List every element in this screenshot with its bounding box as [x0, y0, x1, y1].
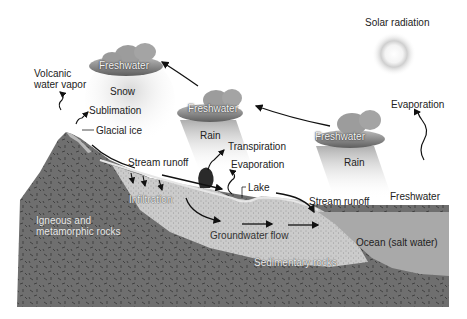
- label-sedimentary-rocks: Sedimentary rocks: [254, 257, 337, 268]
- label-sublimation: Sublimation: [89, 105, 141, 116]
- label-solar-radiation: Solar radiation: [365, 17, 429, 28]
- arrow-lake-evaporation: [228, 170, 235, 194]
- arrow-sublimation: [76, 112, 88, 124]
- label-igneous-rocks: Igneous and metamorphic rocks: [36, 215, 120, 237]
- label-stream-runoff-2: Stream runoff: [309, 196, 369, 207]
- label-transpiration: Transpiration: [228, 141, 286, 152]
- label-lake: Lake: [248, 182, 270, 193]
- rain-streaks-2: [316, 146, 392, 198]
- arrow-cloud3-to-cloud2: [256, 106, 330, 126]
- arrow-ocean-evaporation: [418, 112, 426, 160]
- label-glacial-ice: Glacial ice: [96, 125, 142, 136]
- label-groundwater-flow: Groundwater flow: [210, 230, 288, 241]
- label-cloud-1: Freshwater: [99, 60, 149, 71]
- label-rain-2: Rain: [344, 157, 365, 168]
- label-cloud-2: Freshwater: [188, 103, 238, 114]
- cloud-3-icon: [315, 110, 385, 148]
- label-rain-1: Rain: [200, 130, 221, 141]
- label-evaporation-land: Evaporation: [231, 159, 284, 170]
- label-evaporation-ocean: Evaporation: [391, 99, 444, 110]
- label-volcanic-water-vapor: Volcanic water vapor: [34, 68, 86, 90]
- sun-icon: [372, 32, 416, 76]
- label-ocean: Ocean (salt water): [356, 237, 438, 248]
- label-cloud-3: Freshwater: [315, 131, 365, 142]
- label-snow: Snow: [110, 86, 135, 97]
- label-infiltration: Infiltration: [129, 194, 172, 205]
- arrow-volcanic-vapor: [59, 92, 63, 110]
- label-stream-runoff-1: Stream runoff: [128, 157, 188, 168]
- label-freshwater-ocean: Freshwater: [390, 191, 440, 202]
